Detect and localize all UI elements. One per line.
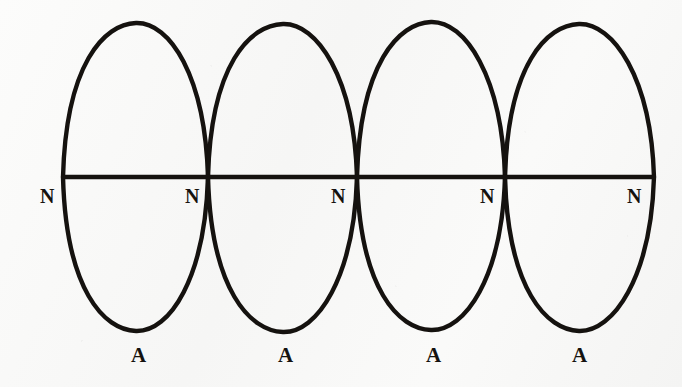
node-label-4: N <box>480 186 494 206</box>
loop-3-upper-arc <box>357 22 505 177</box>
node-label-3: N <box>331 186 345 206</box>
antinode-label-4: A <box>572 345 587 366</box>
loop-2-upper-arc <box>208 24 357 177</box>
antinode-label-2: A <box>278 345 293 366</box>
node-label-5: N <box>627 186 641 206</box>
figure-canvas: N N N N N A A A A <box>0 0 682 387</box>
node-label-1: N <box>40 186 54 206</box>
antinode-label-1: A <box>131 345 146 366</box>
node-label-2: N <box>185 186 199 206</box>
antinode-label-3: A <box>426 345 441 366</box>
loop-4-upper-arc <box>505 24 654 177</box>
loop-1-upper-arc <box>63 23 208 177</box>
